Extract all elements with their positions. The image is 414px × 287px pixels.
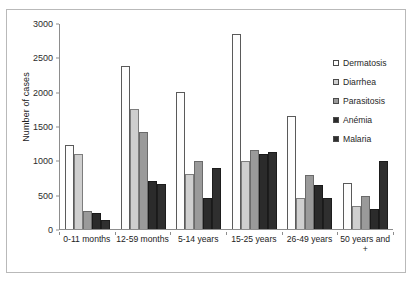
bar[interactable] bbox=[176, 92, 185, 229]
chart-figure: Number of cases 050010001500200025003000… bbox=[6, 9, 406, 273]
bar[interactable] bbox=[352, 206, 361, 229]
x-axis-label: 26-49 years bbox=[282, 232, 338, 254]
bar[interactable] bbox=[379, 161, 388, 229]
bar[interactable] bbox=[361, 196, 370, 229]
bar[interactable] bbox=[65, 145, 74, 229]
legend-item-parasitosis[interactable]: Parasitosis bbox=[333, 91, 405, 110]
bar[interactable] bbox=[305, 175, 314, 229]
bar[interactable] bbox=[296, 198, 305, 229]
x-axis-tick-mark bbox=[337, 232, 338, 235]
chart-legend: DermatosisDiarrheaParasitosisAnémiaMalar… bbox=[329, 51, 405, 151]
x-axis-line bbox=[59, 229, 393, 230]
bar[interactable] bbox=[92, 213, 101, 229]
legend-item-dermatosis[interactable]: Dermatosis bbox=[333, 53, 405, 72]
bar[interactable] bbox=[74, 154, 83, 229]
x-axis-label: 50 years and + bbox=[337, 232, 393, 254]
bar[interactable] bbox=[139, 132, 148, 229]
x-axis-label: 15-25 years bbox=[226, 232, 282, 254]
legend-label: Anémia bbox=[343, 115, 372, 125]
x-axis-labels: 0-11 months12-59 months5-14 years15-25 y… bbox=[59, 232, 393, 254]
x-axis-tick-mark bbox=[115, 232, 116, 235]
y-axis-tick-mark bbox=[56, 127, 59, 128]
legend-item-anémia[interactable]: Anémia bbox=[333, 110, 405, 129]
legend-swatch-icon bbox=[333, 117, 339, 123]
x-axis-tick-mark bbox=[282, 232, 283, 235]
bar[interactable] bbox=[185, 174, 194, 229]
legend-label: Malaria bbox=[343, 134, 371, 144]
y-axis-tick-mark bbox=[56, 161, 59, 162]
bar[interactable] bbox=[157, 184, 166, 229]
legend-label: Dermatosis bbox=[343, 58, 386, 68]
y-axis-tick-mark bbox=[56, 195, 59, 196]
y-axis-tick-mark bbox=[56, 24, 59, 25]
bar[interactable] bbox=[101, 220, 110, 229]
bar[interactable] bbox=[370, 209, 379, 230]
legend-swatch-icon bbox=[333, 79, 339, 85]
bar[interactable] bbox=[203, 198, 212, 229]
bar[interactable] bbox=[232, 34, 241, 229]
legend-swatch-icon bbox=[333, 98, 339, 104]
x-axis-label: 0-11 months bbox=[59, 232, 115, 254]
legend-label: Parasitosis bbox=[343, 96, 385, 106]
bar[interactable] bbox=[148, 181, 157, 229]
bar[interactable] bbox=[314, 185, 323, 229]
y-axis-title: Number of cases bbox=[21, 52, 31, 162]
bar-group bbox=[171, 24, 227, 229]
x-axis-label: 12-59 months bbox=[115, 232, 171, 254]
bar-group bbox=[116, 24, 172, 229]
bar[interactable] bbox=[287, 116, 296, 229]
bar[interactable] bbox=[250, 150, 259, 229]
legend-item-malaria[interactable]: Malaria bbox=[333, 129, 405, 148]
bar[interactable] bbox=[83, 211, 92, 229]
x-axis-tick-mark bbox=[59, 232, 60, 235]
y-axis-tick-mark bbox=[56, 58, 59, 59]
x-axis-tick-mark bbox=[393, 232, 394, 235]
legend-swatch-icon bbox=[333, 136, 339, 142]
bar[interactable] bbox=[259, 154, 268, 229]
bar-group bbox=[60, 24, 116, 229]
bar[interactable] bbox=[130, 109, 139, 229]
y-axis-tick-mark bbox=[56, 92, 59, 93]
legend-item-diarrhea[interactable]: Diarrhea bbox=[333, 72, 405, 91]
bar[interactable] bbox=[121, 66, 130, 229]
bar[interactable] bbox=[212, 168, 221, 229]
bar[interactable] bbox=[343, 183, 352, 229]
y-axis-tick-mark bbox=[56, 230, 59, 231]
bar[interactable] bbox=[323, 198, 332, 229]
legend-swatch-icon bbox=[333, 60, 339, 66]
bar[interactable] bbox=[194, 161, 203, 229]
bar[interactable] bbox=[241, 161, 250, 229]
bar-group bbox=[227, 24, 283, 229]
legend-label: Diarrhea bbox=[343, 77, 376, 87]
x-axis-tick-mark bbox=[226, 232, 227, 235]
bar[interactable] bbox=[268, 152, 277, 229]
x-axis-label: 5-14 years bbox=[170, 232, 226, 254]
x-axis-tick-mark bbox=[170, 232, 171, 235]
